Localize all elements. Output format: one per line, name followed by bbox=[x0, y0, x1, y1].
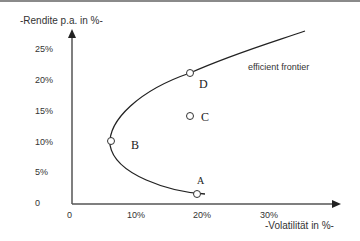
y-tick-0: 0 bbox=[35, 198, 40, 208]
y-tick-5: 5% bbox=[35, 167, 48, 177]
x-tick-20: 20% bbox=[193, 210, 211, 220]
frontier-label: efficient frontier bbox=[248, 62, 309, 72]
point-b-label: B bbox=[131, 138, 139, 153]
y-tick-15: 15% bbox=[35, 106, 53, 116]
x-tick-30: 30% bbox=[260, 210, 278, 220]
y-tick-25: 25% bbox=[35, 44, 53, 54]
point-b-marker bbox=[108, 138, 115, 145]
y-axis-label: -Rendite p.a. in %- bbox=[20, 15, 103, 26]
point-a-label: A bbox=[197, 175, 204, 186]
x-tick-10: 10% bbox=[127, 210, 145, 220]
point-c-marker bbox=[187, 113, 194, 120]
chart-plot bbox=[0, 0, 360, 241]
point-a-marker bbox=[194, 191, 201, 198]
point-c-label: C bbox=[201, 110, 209, 125]
y-tick-20: 20% bbox=[35, 75, 53, 85]
point-d-label: D bbox=[199, 77, 208, 92]
x-tick-0: 0 bbox=[67, 210, 72, 220]
x-axis-label: -Volatilität in %- bbox=[265, 220, 334, 231]
point-d-marker bbox=[187, 70, 194, 77]
y-tick-10: 10% bbox=[35, 137, 53, 147]
